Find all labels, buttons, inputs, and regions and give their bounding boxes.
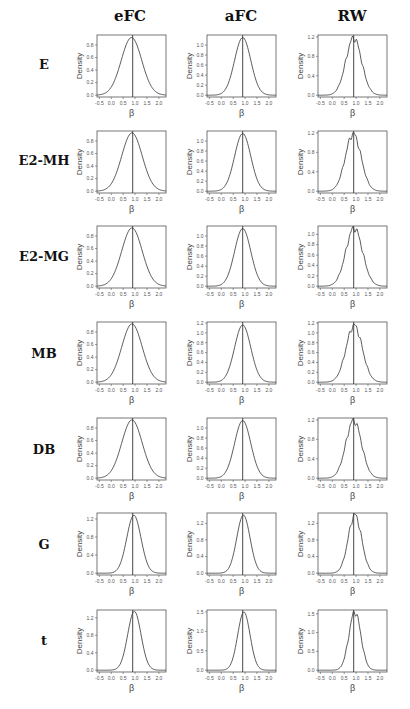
svg-text:0.4: 0.4 [197, 72, 204, 78]
svg-text:0.5: 0.5 [120, 578, 127, 584]
svg-text:1.0: 1.0 [308, 231, 315, 237]
svg-text:β: β [129, 491, 134, 501]
svg-text:0.0: 0.0 [218, 291, 225, 297]
svg-text:0.0: 0.0 [87, 570, 94, 576]
svg-text:0.5: 0.5 [341, 100, 348, 106]
svg-text:1.5: 1.5 [364, 578, 371, 584]
density-plot-e2-mg-efc: 0.00.20.40.60.8-0.50.00.51.01.52.0Densit… [68, 221, 178, 313]
svg-text:0.0: 0.0 [108, 578, 115, 584]
svg-text:1.5: 1.5 [364, 387, 371, 393]
density-plot-e2-mh-rw: 0.00.40.81.2-0.50.00.51.01.52.0Densityβ [289, 126, 399, 218]
density-plot-t-rw: 0.00.51.01.5-0.50.00.51.01.52.0Densityβ [289, 605, 399, 697]
svg-text:1.0: 1.0 [353, 100, 360, 106]
svg-text:0.0: 0.0 [108, 291, 115, 297]
svg-text:1.5: 1.5 [143, 291, 150, 297]
svg-text:1.0: 1.0 [132, 578, 139, 584]
svg-text:0.0: 0.0 [218, 196, 225, 202]
svg-text:0.8: 0.8 [87, 632, 94, 638]
density-plot-mb-efc: 0.00.20.40.60.8-0.50.00.51.01.52.0Densit… [68, 317, 178, 409]
svg-text:0.2: 0.2 [87, 366, 94, 372]
svg-text:2.0: 2.0 [265, 483, 272, 489]
svg-text:1.2: 1.2 [308, 130, 315, 136]
density-plot-e-rw: 0.00.40.81.2-0.50.00.51.01.52.0Densityβ [289, 30, 399, 122]
svg-text:Density: Density [185, 149, 194, 176]
density-plot-mb-rw: 0.00.20.40.60.81.01.2-0.50.00.51.01.52.0… [289, 317, 399, 409]
svg-text:1.5: 1.5 [253, 100, 260, 106]
svg-text:0.2: 0.2 [197, 465, 204, 471]
svg-text:0.0: 0.0 [87, 667, 94, 673]
svg-text:2.0: 2.0 [155, 578, 162, 584]
svg-text:0.5: 0.5 [230, 100, 237, 106]
svg-text:0.4: 0.4 [87, 552, 94, 558]
svg-text:0.0: 0.0 [108, 196, 115, 202]
svg-text:2.0: 2.0 [155, 387, 162, 393]
svg-text:2.0: 2.0 [376, 675, 383, 681]
svg-text:0.6: 0.6 [87, 437, 94, 443]
svg-text:0.5: 0.5 [120, 100, 127, 106]
svg-text:1.5: 1.5 [253, 291, 260, 297]
svg-text:β: β [239, 683, 244, 693]
svg-text:0.2: 0.2 [87, 79, 94, 85]
svg-text:0.8: 0.8 [87, 329, 94, 335]
svg-text:β: β [239, 204, 244, 214]
svg-text:-0.5: -0.5 [95, 578, 104, 584]
svg-text:1.5: 1.5 [143, 483, 150, 489]
svg-text:1.5: 1.5 [364, 100, 371, 106]
svg-text:0.0: 0.0 [108, 100, 115, 106]
svg-text:0.0: 0.0 [218, 578, 225, 584]
svg-text:β: β [129, 108, 134, 118]
svg-text:0.8: 0.8 [308, 436, 315, 442]
svg-text:0.0: 0.0 [308, 188, 315, 194]
svg-text:0.5: 0.5 [120, 291, 127, 297]
svg-text:0.4: 0.4 [87, 163, 94, 169]
density-plot-g-afc: 0.00.40.81.2-0.50.00.51.01.52.0Densityβ [178, 508, 288, 600]
svg-text:1.2: 1.2 [87, 516, 94, 522]
svg-text:0.0: 0.0 [108, 483, 115, 489]
svg-text:0.2: 0.2 [308, 273, 315, 279]
column-title-afc: aFC [191, 7, 291, 25]
svg-text:2.0: 2.0 [376, 100, 383, 106]
svg-text:0.8: 0.8 [87, 425, 94, 431]
density-plot-t-afc: 0.00.51.01.5-0.50.00.51.01.52.0Densityβ [178, 605, 288, 697]
svg-text:-0.5: -0.5 [316, 387, 325, 393]
svg-text:0.4: 0.4 [308, 553, 315, 559]
svg-text:0.4: 0.4 [308, 359, 315, 365]
density-plot-g-efc: 0.00.40.81.2-0.50.00.51.01.52.0Densityβ [68, 508, 178, 600]
svg-text:0.5: 0.5 [120, 675, 127, 681]
svg-text:0.6: 0.6 [197, 445, 204, 451]
svg-text:0.6: 0.6 [197, 158, 204, 164]
svg-text:0.0: 0.0 [87, 92, 94, 98]
svg-text:β: β [129, 586, 134, 596]
svg-text:1.2: 1.2 [308, 520, 315, 526]
svg-text:Density: Density [296, 628, 305, 655]
svg-text:β: β [129, 299, 134, 309]
svg-text:Density: Density [185, 340, 194, 367]
svg-text:0.0: 0.0 [308, 92, 315, 98]
svg-text:0.4: 0.4 [87, 354, 94, 360]
svg-text:0.6: 0.6 [197, 253, 204, 259]
svg-text:Density: Density [75, 340, 84, 367]
svg-text:1.0: 1.0 [353, 483, 360, 489]
svg-text:β: β [129, 683, 134, 693]
svg-text:0.8: 0.8 [87, 138, 94, 144]
svg-text:-0.5: -0.5 [205, 387, 214, 393]
svg-text:2.0: 2.0 [265, 578, 272, 584]
svg-text:0.5: 0.5 [230, 196, 237, 202]
svg-text:-0.5: -0.5 [316, 291, 325, 297]
svg-text:1.5: 1.5 [143, 196, 150, 202]
svg-text:1.0: 1.0 [242, 387, 249, 393]
svg-text:-0.5: -0.5 [316, 483, 325, 489]
svg-text:Density: Density [296, 244, 305, 271]
svg-text:0.0: 0.0 [329, 291, 336, 297]
svg-text:1.5: 1.5 [253, 483, 260, 489]
density-plot-e2-mh-afc: 0.00.20.40.60.81.0-0.50.00.51.01.52.0Den… [178, 126, 288, 218]
density-plot-g-rw: 0.00.40.81.2-0.50.00.51.01.52.0Densityβ [289, 508, 399, 600]
svg-text:2.0: 2.0 [265, 100, 272, 106]
svg-text:0.5: 0.5 [120, 196, 127, 202]
svg-text:β: β [350, 586, 355, 596]
svg-text:2.0: 2.0 [376, 578, 383, 584]
svg-text:0.5: 0.5 [230, 387, 237, 393]
svg-text:Density: Density [185, 436, 194, 463]
svg-text:1.2: 1.2 [308, 34, 315, 40]
svg-text:Density: Density [75, 244, 84, 271]
